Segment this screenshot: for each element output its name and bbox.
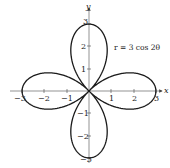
x-tick-label: 2	[132, 94, 137, 103]
y-axis-label: y	[85, 2, 91, 11]
polar-rose-chart: −3 −2 −1 1 2 3 3 2 1 −1 −2 −3 x y r = 3 …	[0, 0, 170, 168]
y-tick-label: 1	[81, 65, 86, 74]
x-axis-label: x	[164, 86, 169, 95]
y-tick-label: −1	[77, 109, 89, 118]
y-tick-label: −3	[80, 155, 92, 164]
x-tick-label: 3	[154, 94, 159, 103]
x-tick-label: −1	[61, 94, 73, 103]
x-tick-label: −3	[14, 94, 26, 103]
y-tick-label: 2	[81, 42, 86, 51]
x-tick-label: −2	[38, 94, 50, 103]
x-tick-label: 1	[109, 94, 114, 103]
y-tick-label: −2	[77, 132, 89, 141]
equation-label: r = 3 cos 2θ	[114, 43, 161, 52]
y-tick-label: 3	[83, 17, 88, 26]
